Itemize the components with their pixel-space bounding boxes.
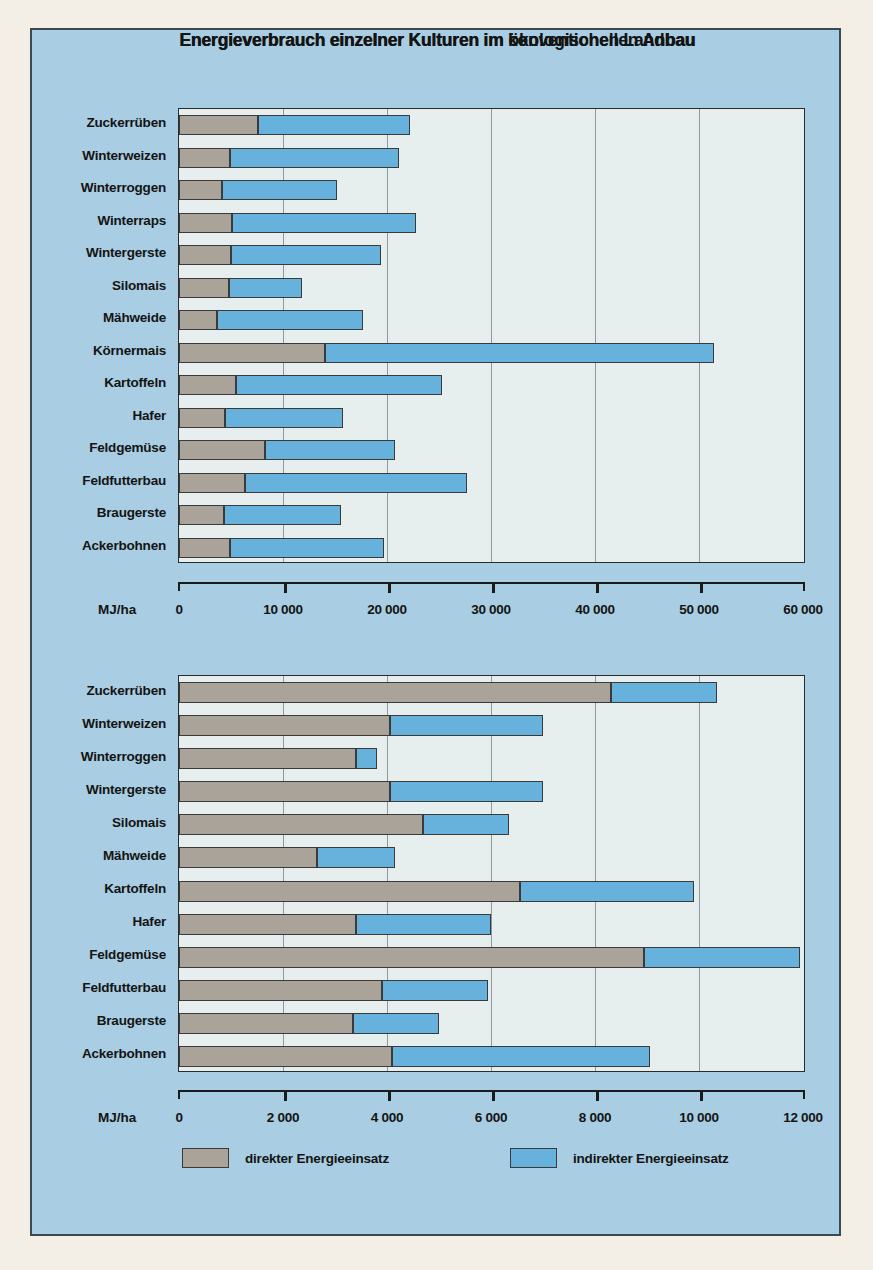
x-axis-ticklabel: 4 000: [371, 1110, 403, 1125]
bar-segment-indirect: [225, 408, 344, 428]
bar-row: [179, 505, 804, 525]
bar-row: [179, 914, 804, 935]
bar-segment-direct: [179, 213, 232, 233]
x-axis-tick: [492, 584, 495, 593]
bar-row: [179, 847, 804, 868]
bar-segment-direct: [179, 814, 423, 835]
legend-swatch-indirect: [510, 1148, 557, 1168]
bar-row: [179, 980, 804, 1001]
legend-swatch-direct: [182, 1148, 229, 1168]
bar-row: [179, 715, 804, 736]
plot-area-conventional: [178, 108, 805, 563]
category-label: Ackerbohnen: [32, 1046, 166, 1061]
bar-segment-direct: [179, 538, 230, 558]
bar-segment-direct: [179, 310, 217, 330]
x-axis-ticklabel: 10 000: [679, 1110, 719, 1125]
bar-segment-direct: [179, 1013, 353, 1034]
x-axis-ticklabel: 8 000: [579, 1110, 611, 1125]
x-axis-ticklabel: 2 000: [267, 1110, 299, 1125]
category-label: Winterraps: [32, 213, 166, 228]
x-axis-ticklabel: 50 000: [679, 602, 719, 617]
bar-segment-indirect: [325, 343, 714, 363]
bar-row: [179, 343, 804, 363]
category-label: Braugerste: [32, 505, 166, 520]
bar-segment-indirect: [217, 310, 363, 330]
bar-row: [179, 1013, 804, 1034]
category-label: Kartoffeln: [32, 375, 166, 390]
bar-segment-indirect: [224, 505, 342, 525]
x-axis-tick: [388, 1092, 391, 1101]
bar-segment-direct: [179, 245, 231, 265]
bar-segment-direct: [179, 148, 230, 168]
bar-segment-indirect: [382, 980, 489, 1001]
bar-segment-direct: [179, 278, 229, 298]
category-label: Silomais: [32, 815, 166, 830]
bar-segment-indirect: [644, 947, 800, 968]
bar-row: [179, 278, 804, 298]
x-axis-tick: [596, 584, 599, 593]
category-label: Winterroggen: [32, 749, 166, 764]
legend-item-indirect: indirekter Energieeinsatz: [510, 1148, 729, 1168]
bar-row: [179, 375, 804, 395]
x-axis-ticklabel: 0: [175, 1110, 182, 1125]
bar-segment-direct: [179, 947, 644, 968]
bar-segment-direct: [179, 440, 265, 460]
category-label: Feldgemüse: [32, 947, 166, 962]
bar-segment-indirect: [258, 115, 410, 135]
bar-row: [179, 781, 804, 802]
bar-segment-indirect: [390, 715, 543, 736]
category-label: Körnermais: [32, 343, 166, 358]
x-axis-unit-organic: MJ/ha: [98, 1110, 136, 1125]
x-axis-ticklabel: 20 000: [367, 602, 407, 617]
x-axis-organic: [178, 1090, 805, 1099]
bar-row: [179, 180, 804, 200]
bar-segment-indirect: [229, 278, 302, 298]
category-label: Wintergerste: [32, 245, 166, 260]
x-axis-tick: [596, 1092, 599, 1101]
bar-segment-direct: [179, 343, 325, 363]
x-axis-ticklabel: 30 000: [471, 602, 511, 617]
bar-segment-indirect: [245, 473, 468, 493]
category-label: Kartoffeln: [32, 881, 166, 896]
bar-segment-direct: [179, 980, 382, 1001]
bar-segment-indirect: [230, 538, 384, 558]
bar-row: [179, 538, 804, 558]
bar-row: [179, 213, 804, 233]
category-label: Mähweide: [32, 848, 166, 863]
bar-segment-indirect: [317, 847, 395, 868]
bar-row: [179, 682, 804, 703]
gridline: [387, 109, 388, 562]
bar-segment-indirect: [423, 814, 509, 835]
bar-segment-indirect: [356, 914, 491, 935]
x-axis-tick: [700, 1092, 703, 1101]
bar-segment-direct: [179, 881, 520, 902]
plot-area-organic: [178, 675, 805, 1072]
bar-row: [179, 440, 804, 460]
bar-segment-indirect: [231, 245, 381, 265]
x-axis-ticklabel: 12 000: [783, 1110, 823, 1125]
category-label: Hafer: [32, 914, 166, 929]
bar-segment-indirect: [222, 180, 337, 200]
category-label: Mähweide: [32, 310, 166, 325]
bar-segment-direct: [179, 115, 258, 135]
category-label: Zuckerrüben: [32, 115, 166, 130]
category-label: Ackerbohnen: [32, 538, 166, 553]
bar-segment-indirect: [356, 748, 377, 769]
bar-segment-direct: [179, 505, 224, 525]
bar-segment-direct: [179, 748, 356, 769]
category-label: Feldfutterbau: [32, 980, 166, 995]
bar-row: [179, 408, 804, 428]
bar-segment-direct: [179, 473, 245, 493]
x-axis-ticklabel: 6 000: [475, 1110, 507, 1125]
bar-row: [179, 115, 804, 135]
bar-segment-indirect: [230, 148, 400, 168]
legend-label-direct: direkter Energieeinsatz: [245, 1151, 389, 1166]
x-axis-tick: [284, 1092, 287, 1101]
category-label: Silomais: [32, 278, 166, 293]
chart-title-organic: Energieverbrauch einzelner Kulturen im ö…: [32, 30, 843, 51]
gridline: [699, 109, 700, 562]
category-label: Winterweizen: [32, 716, 166, 731]
x-axis-unit-conventional: MJ/ha: [98, 602, 136, 617]
gridline: [491, 109, 492, 562]
bar-row: [179, 947, 804, 968]
